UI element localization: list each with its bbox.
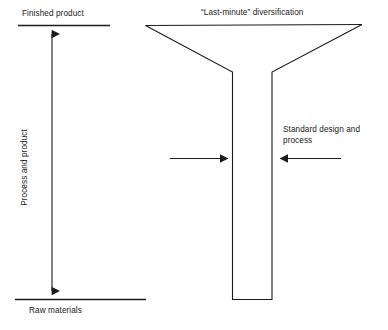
raw-materials-label: Raw materials bbox=[29, 305, 82, 316]
last-minute-diversification-label: “Last-minute” diversification bbox=[201, 7, 303, 18]
process-and-product-label: Process and product bbox=[19, 118, 30, 218]
finished-product-label: Finished product bbox=[22, 8, 84, 19]
funnel-outline bbox=[146, 25, 363, 300]
diagram-canvas: Finished product Raw materials Process a… bbox=[0, 0, 388, 330]
diagram-vector-layer bbox=[0, 0, 388, 330]
funnel-mouth-edge bbox=[146, 25, 363, 26]
standard-design-and-process-label: Standard design and process bbox=[283, 124, 375, 146]
